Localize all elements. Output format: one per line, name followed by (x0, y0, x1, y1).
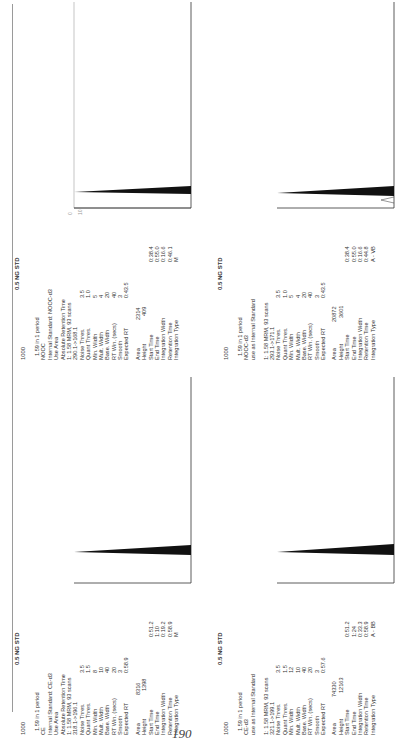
sample-name: 0.5 NG STD (217, 257, 223, 290)
sample-name: 0.5 NG STD (14, 257, 20, 290)
compound-name: CE (40, 727, 46, 735)
svg-text:0: 0 (67, 212, 73, 215)
chromatogram-ce-d3 (269, 377, 397, 743)
sample-id: 1000 (20, 722, 26, 735)
compound-name: NOOC-d3 (243, 335, 249, 360)
sample-id: 1000 (223, 722, 229, 735)
sample-name: 0.5 NG STD (217, 632, 223, 665)
sample-id: 1000 (223, 347, 229, 360)
compound-name: CE-d3 (243, 719, 249, 735)
page-top-half: 1000 0.5 NG STD 1.59 in 1 period NOOC In… (14, 0, 412, 370)
page-margin-rule (12, 4, 13, 712)
chromatogram-ce (66, 377, 194, 743)
panel-nooc-d3: 1000 0.5 NG STD 1.59 in 1 period NOOC-d3… (217, 0, 402, 370)
compound-name: NOOC (40, 343, 46, 360)
panel-ce: 1000 0.5 NG STD 1.59 in 1 period CE Inte… (14, 375, 199, 745)
chromatogram-nooc-d3 (269, 2, 397, 368)
svg-text:10: 10 (77, 209, 83, 215)
panel-ce-d3: 1000 0.5 NG STD 1.59 in 1 period CE-d3 u… (217, 375, 402, 745)
sample-id: 1000 (20, 347, 26, 360)
page-number: 190 (172, 726, 192, 742)
sample-name: 0.5 NG STD (14, 632, 20, 665)
page-bottom-half: 1000 0.5 NG STD 1.59 in 1 period CE Inte… (14, 375, 412, 745)
panel-nooc: 1000 0.5 NG STD 1.59 in 1 period NOOC In… (14, 0, 199, 370)
chromatogram-nooc: 010 (66, 2, 194, 368)
